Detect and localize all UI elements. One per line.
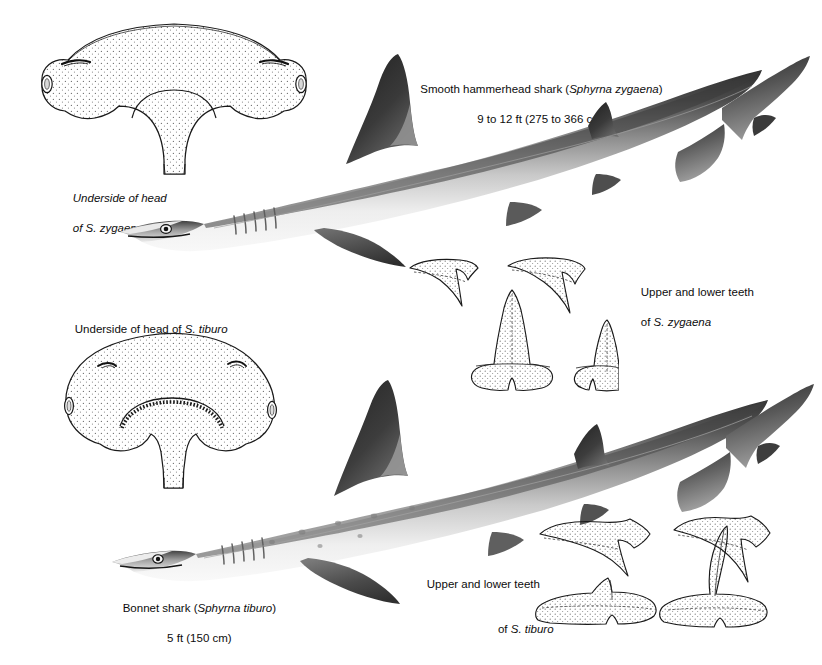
caption-line-2-species: S. tiburo bbox=[511, 623, 554, 635]
caption-teeth-tiburo: Upper and lower teeth of S. tiburo bbox=[414, 562, 554, 665]
caption-line-1: Upper and lower teeth bbox=[427, 578, 540, 590]
illustration-plate: Underside of head of S. zygaena Smooth h… bbox=[0, 0, 822, 665]
figure-shark-zygaena bbox=[118, 52, 818, 267]
title-suffix: ) bbox=[272, 602, 276, 614]
title-size: 5 ft (150 cm) bbox=[167, 632, 232, 644]
title-prefix: Bonnet shark ( bbox=[123, 602, 198, 614]
figure-teeth-tiburo bbox=[534, 508, 784, 633]
caption-line-2-prefix: of bbox=[498, 623, 511, 635]
title-species: Sphyrna tiburo bbox=[197, 602, 272, 614]
caption-line-1: Upper and lower teeth bbox=[641, 286, 754, 298]
caption-title-tiburo: Bonnet shark (Sphyrna tiburo) 5 ft (150 … bbox=[78, 586, 308, 661]
